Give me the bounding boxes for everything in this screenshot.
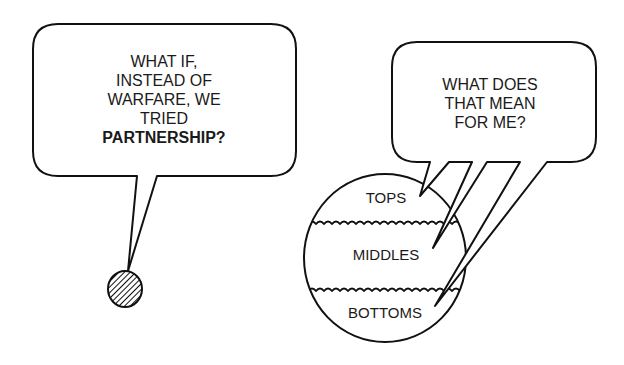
right-bubble-line: WHAT DOES: [410, 75, 570, 94]
left-bubble-line: TRIED: [64, 109, 264, 128]
left-bubble-line: INSTEAD OF: [64, 71, 264, 90]
right-bubble-text: WHAT DOES THAT MEAN FOR ME?: [410, 75, 570, 132]
right-bubble-line: FOR ME?: [410, 113, 570, 132]
left-bubble-line: WHAT IF,: [64, 52, 264, 71]
layer-label-bottoms: BOTTOMS: [348, 304, 422, 322]
right-bubble-line: THAT MEAN: [410, 94, 570, 113]
hatched-circle-icon: [108, 271, 142, 307]
left-bubble-line: WARFARE, WE: [64, 90, 264, 109]
left-bubble-emphasis: PARTNERSHIP?: [64, 128, 264, 147]
layer-label-tops: TOPS: [366, 189, 407, 207]
left-bubble-text: WHAT IF, INSTEAD OF WARFARE, WE TRIED PA…: [64, 52, 264, 147]
layer-label-middles: MIDDLES: [353, 246, 420, 264]
